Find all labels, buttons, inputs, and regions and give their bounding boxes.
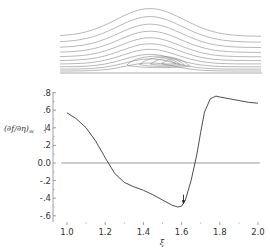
streamline (60, 38, 261, 57)
figure: .8.6.4.20.0-.2-.4-.6 1.01.21.41.61.82.0 … (0, 0, 270, 249)
y-tick-label: -.4 (40, 193, 51, 203)
x-axis-label: ξ (160, 238, 165, 247)
x-tick-label: 2.0 (251, 227, 265, 237)
streamline (60, 24, 261, 47)
streamline-plot (60, 9, 262, 73)
streamline (60, 17, 261, 42)
y-tick-label: .2 (43, 140, 51, 150)
y-tick-label: .6 (43, 105, 51, 115)
x-tick-label: 1.6 (175, 227, 189, 237)
y-axis-label: (∂f/∂η)w (4, 124, 34, 134)
y-tick-label: -.2 (40, 176, 51, 186)
streamline (60, 44, 261, 61)
wall-shear-curve (67, 96, 258, 207)
wall-shear-chart: .8.6.4.20.0-.2-.4-.6 1.01.21.41.61.82.0 … (4, 88, 265, 247)
y-tick-label: .8 (43, 88, 51, 98)
x-ticks: 1.01.21.41.61.82.0 (60, 222, 265, 237)
y-tick-label: 0.0 (37, 158, 51, 168)
x-tick-label: 1.0 (60, 227, 74, 237)
x-tick-label: 1.8 (213, 227, 227, 237)
y-tick-label: .4 (43, 123, 51, 133)
y-tick-label: -.6 (40, 211, 51, 221)
streamline (60, 31, 261, 52)
x-tick-label: 1.2 (98, 227, 112, 237)
separation-arrow-icon (182, 195, 186, 205)
x-tick-label: 1.4 (137, 227, 151, 237)
streamline (60, 9, 261, 37)
